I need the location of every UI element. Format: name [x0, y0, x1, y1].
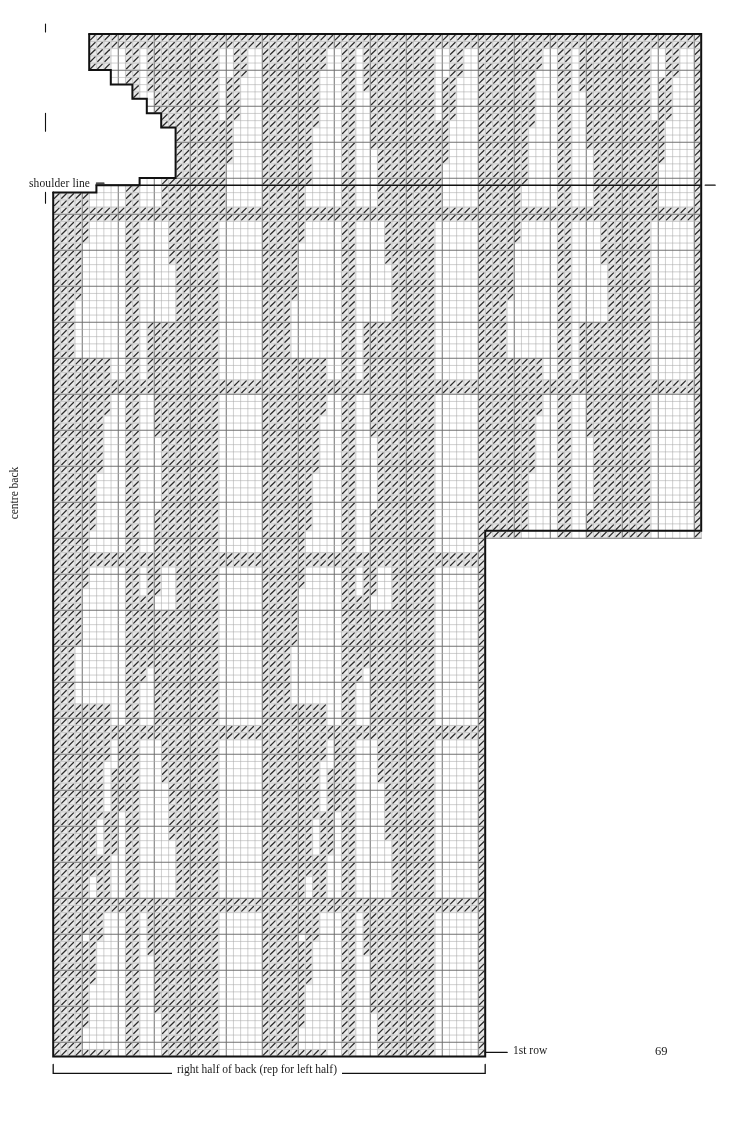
first-row-label: 1st row: [513, 1044, 547, 1056]
shoulder-line-label: shoulder line: [29, 177, 90, 189]
page-number: 69: [655, 1044, 668, 1059]
repeat-label: right half of back (rep for left half): [172, 1063, 342, 1075]
centre-back-label: centre back: [8, 458, 20, 528]
stitch-chart-page: shoulder line centre back 1st row right …: [0, 0, 737, 1126]
stitch-chart-grid: [0, 0, 737, 1126]
